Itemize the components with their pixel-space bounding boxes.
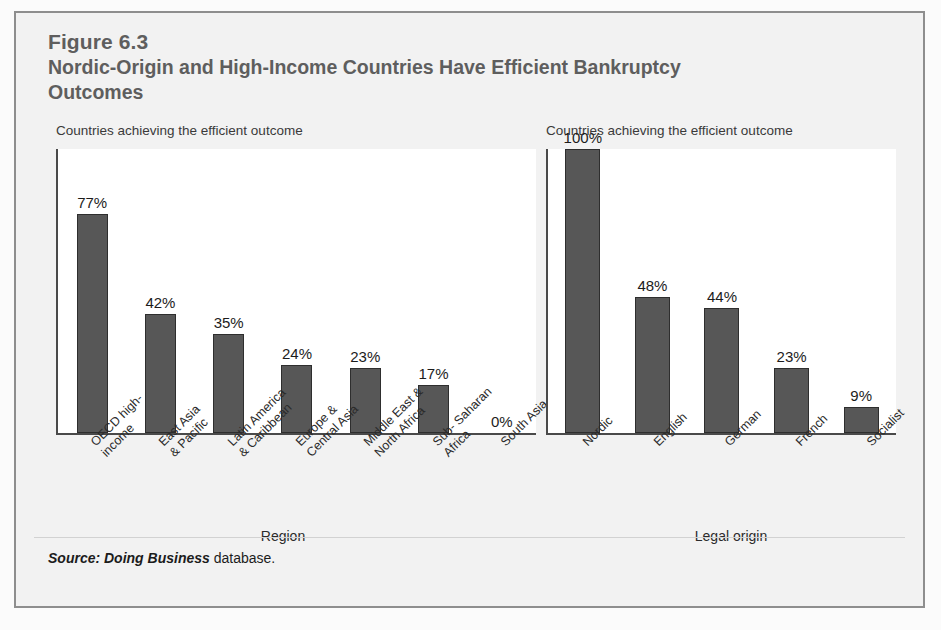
bar-value-label: 23% [777, 348, 807, 365]
tick-slot: East Asia& Pacific [126, 437, 194, 527]
bar-value-label: 24% [282, 345, 312, 362]
bar-slot: 23% [757, 149, 827, 433]
figure-frame: Figure 6.3 Nordic-Origin and High-Income… [14, 11, 925, 608]
bar-value-label: 17% [419, 365, 449, 382]
bar [774, 368, 809, 433]
tick-slot: Socialist [833, 437, 904, 527]
bar-slot: 35% [195, 149, 263, 433]
tick-slot: Sub- SaharanAfrica [399, 437, 467, 527]
bar-slot: 9% [826, 149, 896, 433]
plot-area-legal-origin: 100%48%44%23%9% [546, 149, 896, 435]
bar-slot: 100% [548, 149, 618, 433]
tick-slot: South Asia [468, 437, 536, 527]
bar [704, 308, 739, 433]
tick-slot: Middle East &North Africa [331, 437, 399, 527]
tick-slot: English [619, 437, 690, 527]
bar-slot: 48% [618, 149, 688, 433]
tick-slot: OECD high-income [58, 437, 126, 527]
bar [635, 297, 670, 433]
bar [565, 149, 600, 433]
bar-value-label: 23% [350, 348, 380, 365]
bar [213, 334, 244, 433]
tick-slot: Europe &Central Asia [263, 437, 331, 527]
bar-slot: 42% [126, 149, 194, 433]
bar-slot: 77% [58, 149, 126, 433]
tick-slot: French [762, 437, 833, 527]
plot-area-region: 77%42%35%24%23%17%0% [56, 149, 536, 435]
bar-slot: 23% [331, 149, 399, 433]
source-label: Source: Doing Business [48, 550, 210, 566]
figure-title-block: Figure 6.3 Nordic-Origin and High-Income… [48, 29, 898, 105]
source-text: database. [210, 550, 275, 566]
tick-slot: Latin America& Caribbean [195, 437, 263, 527]
bar-slot: 44% [687, 149, 757, 433]
tick-slot: German [690, 437, 761, 527]
bar-group-region: 77%42%35%24%23%17%0% [58, 149, 536, 433]
figure-title: Nordic-Origin and High-Income Countries … [48, 55, 738, 105]
source-divider [34, 537, 905, 538]
bar-group-legal-origin: 100%48%44%23%9% [548, 149, 896, 433]
bar [77, 214, 108, 433]
bar-value-label: 44% [707, 288, 737, 305]
bar-value-label: 9% [850, 387, 872, 404]
source-note: Source: Doing Business database. [48, 550, 275, 566]
x-tick-labels-region: OECD high-incomeEast Asia& PacificLatin … [58, 437, 536, 527]
chart-subtitle-region: Countries achieving the efficient outcom… [56, 123, 303, 138]
bar-value-label: 42% [145, 294, 175, 311]
x-axis-title-legal-origin: Legal origin [552, 528, 910, 544]
tick-slot: Nordic [548, 437, 619, 527]
bar-value-label: 48% [637, 277, 667, 294]
x-tick-labels-legal-origin: NordicEnglishGermanFrenchSocialist [548, 437, 904, 527]
figure-number: Figure 6.3 [48, 29, 898, 55]
x-axis-title-region: Region [36, 528, 530, 544]
bar-value-label: 35% [214, 314, 244, 331]
bar-value-label: 100% [564, 129, 602, 146]
bar-value-label: 77% [77, 194, 107, 211]
